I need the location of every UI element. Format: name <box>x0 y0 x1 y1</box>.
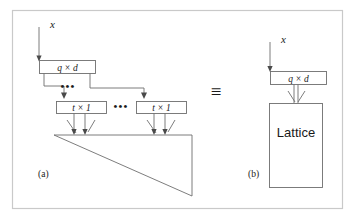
panel-a-caption: (a) <box>38 169 49 180</box>
equivalence-symbol: ≡ <box>211 81 222 102</box>
panel-b-lattice-label: Lattice <box>277 125 315 140</box>
panel-a-ellipsis-upper: ••• <box>60 80 75 92</box>
panel-a-ellipsis-mid: ••• <box>113 100 128 112</box>
panel-a-t1-box-right-label: t × 1 <box>152 103 171 113</box>
panel-b-qd-box-label: q × d <box>288 74 309 84</box>
panel-b-lattice-box <box>270 104 323 188</box>
panel-b-caption: (b) <box>248 169 259 180</box>
panel-a-t1-box-left-label: t × 1 <box>72 103 91 113</box>
figure-diagram: ≡ x q × d ••• t × 1 ••• t × 1 (a) x q × … <box>0 0 354 221</box>
panel-a-input-label: x <box>49 18 55 30</box>
figure-container: ≡ x q × d ••• t × 1 ••• t × 1 (a) x q × … <box>0 0 354 221</box>
panel-a-qd-box-label: q × d <box>57 63 78 73</box>
panel-b-input-label: x <box>280 33 286 45</box>
